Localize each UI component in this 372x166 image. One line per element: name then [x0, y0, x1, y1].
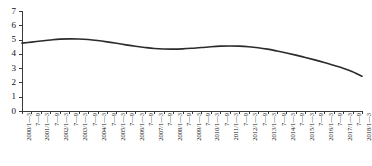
data-series-line	[22, 39, 362, 76]
x-tick-label: 2000/1—3	[25, 113, 32, 141]
x-tick-label: 2013/1—3	[270, 113, 277, 141]
x-axis-labels: 2000/1—37—92001/1—37—92002/1—37—92003/1—…	[0, 111, 372, 166]
x-tick-label: 7—9	[242, 113, 249, 126]
x-tick-label: 7—9	[147, 113, 154, 126]
x-tick-label: 2011/1—3	[232, 113, 239, 141]
x-tick-label: 7—9	[166, 113, 173, 126]
x-tick-label: 7—9	[34, 113, 41, 126]
x-tick-label: 7—9	[298, 113, 305, 126]
x-tick-label: 7—9	[91, 113, 98, 126]
x-tick-label: 7—9	[317, 113, 324, 126]
x-tick-label: 2016/1—3	[327, 113, 334, 141]
x-tick-label: 2015/1—3	[308, 113, 315, 141]
x-tick-label: 2012/1—3	[251, 113, 258, 141]
x-tick-label: 2002/1—3	[62, 113, 69, 141]
x-tick-label: 2005/1—3	[119, 113, 126, 141]
x-tick-label: 2008/1—3	[176, 113, 183, 141]
x-tick-label: 7—9	[261, 113, 268, 126]
x-tick-label: 7—9	[223, 113, 230, 126]
x-tick-label: 7—9	[280, 113, 287, 126]
x-tick-label: 2007/1—3	[157, 113, 164, 141]
x-tick-label: 7—9	[355, 113, 362, 126]
line-chart: 01234567 2000/1—37—92001/1—37—92002/1—37…	[0, 0, 372, 166]
x-tick-label: 7—9	[204, 113, 211, 126]
x-tick-label: 2004/1—3	[100, 113, 107, 141]
x-tick-label: 2006/1—3	[138, 113, 145, 141]
x-tick-label: 7—9	[128, 113, 135, 126]
x-tick-label: 7—9	[72, 113, 79, 126]
x-tick-label: 7—9	[110, 113, 117, 126]
x-tick-label: 7—9	[185, 113, 192, 126]
x-tick-label: 2010/1—3	[213, 113, 220, 141]
x-tick-label: 2003/1—3	[81, 113, 88, 141]
x-tick-label: 2009/1—3	[195, 113, 202, 141]
x-tick-label: 2014/1—3	[289, 113, 296, 141]
x-tick-label: 7—9	[336, 113, 343, 126]
x-tick-label: 7—9	[53, 113, 60, 126]
x-tick-label: 2018/1—3	[365, 113, 372, 141]
x-tick-label: 2001/1—3	[43, 113, 50, 141]
x-tick-label: 2017/1—3	[346, 113, 353, 141]
